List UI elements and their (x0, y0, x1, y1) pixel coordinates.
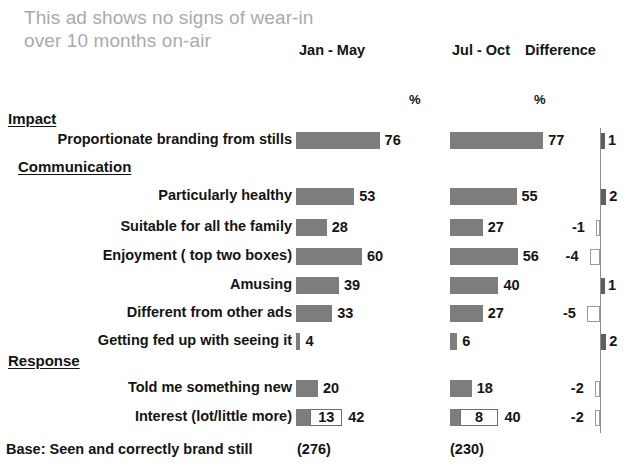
bar-value-jan-may: 39 (344, 277, 360, 293)
row-label: Interest (lot/little more) (135, 408, 292, 424)
bar-value-jan-may: 33 (337, 305, 353, 321)
bar-value-jan-may: 20 (323, 380, 339, 396)
bar-jul-oct (450, 132, 543, 149)
section-heading-communication: Communication (18, 158, 131, 175)
percent-unit-jul-oct: % (534, 92, 546, 107)
bar-value-jan-may: 60 (367, 248, 383, 264)
base-label: Base: Seen and correctly brand still (6, 441, 253, 457)
bar-value-jul-oct: 27 (488, 219, 504, 235)
percent-unit-jan-may: % (409, 92, 421, 107)
difference-bar-negative (590, 249, 600, 265)
difference-bar-negative (595, 381, 600, 397)
table-row: Enjoyment ( top two boxes)6056-4 (0, 246, 636, 268)
bar-jul-oct (450, 248, 518, 265)
table-row: Getting fed up with seeing it462 (0, 331, 636, 353)
bar-jan-may (296, 188, 354, 205)
row-label: Particularly healthy (158, 187, 292, 203)
column-header-difference: Difference (525, 42, 596, 58)
bar-jan-may (296, 219, 327, 236)
bar-jan-may (296, 333, 300, 350)
bar-jul-oct-segment (450, 409, 460, 426)
row-label: Told me something new (128, 379, 292, 395)
table-row: Different from other ads3327-5 (0, 303, 636, 325)
bar-jul-oct (450, 380, 472, 397)
bar-segment-label-jan-may: 13 (310, 409, 342, 425)
difference-bar-positive (601, 334, 606, 350)
bar-jan-may (296, 380, 318, 397)
row-label: Different from other ads (127, 304, 292, 320)
difference-bar-positive (601, 133, 605, 149)
bar-value-jul-oct: 27 (488, 305, 504, 321)
table-row: Suitable for all the family2827-1 (0, 217, 636, 239)
difference-bar-negative (596, 220, 600, 236)
difference-value: -1 (572, 219, 585, 235)
section-heading-response: Response (8, 352, 80, 369)
bar-jul-oct (450, 219, 483, 236)
difference-value: 1 (608, 132, 616, 148)
difference-value: 2 (609, 188, 617, 204)
bar-value-jul-oct: 40 (504, 409, 520, 425)
base-value-jan-may: (276) (297, 441, 331, 457)
table-row: Amusing39401 (0, 275, 636, 297)
difference-value: 1 (608, 277, 616, 293)
bar-value-jul-oct: 18 (477, 380, 493, 396)
difference-value: -2 (571, 380, 584, 396)
section-heading-impact: Impact (8, 110, 56, 127)
bar-jan-may (296, 305, 332, 322)
base-value-jul-oct: (230) (450, 441, 484, 457)
table-row: Proportionate branding from stills76771 (0, 130, 636, 152)
bar-jul-oct (450, 277, 498, 294)
table-row: Particularly healthy53552 (0, 186, 636, 208)
bar-value-jul-oct: 55 (522, 188, 538, 204)
table-row: Told me something new2018-2 (0, 378, 636, 400)
bar-jul-oct (450, 188, 517, 205)
difference-bar-positive (601, 278, 605, 294)
bar-segment-label-jul-oct: 8 (460, 409, 499, 425)
bar-jan-may (296, 248, 362, 265)
row-label: Getting fed up with seeing it (98, 332, 292, 348)
bar-value-jan-may: 28 (332, 219, 348, 235)
column-header-jan-may: Jan - May (299, 42, 365, 58)
difference-value: 2 (609, 333, 617, 349)
row-label: Enjoyment ( top two boxes) (103, 247, 292, 263)
bar-value-jan-may: 4 (305, 333, 313, 349)
bar-jan-may-segment (296, 409, 310, 426)
wear-in-chart: This ad shows no signs of wear-in over 1… (0, 0, 636, 467)
bar-value-jul-oct: 56 (523, 248, 539, 264)
row-label: Suitable for all the family (120, 218, 292, 234)
bar-value-jan-may: 76 (385, 132, 401, 148)
difference-value: -2 (571, 409, 584, 425)
bar-jul-oct (450, 333, 457, 350)
column-header-jul-oct: Jul - Oct (452, 42, 510, 58)
difference-value: -4 (566, 248, 579, 264)
bar-value-jul-oct: 40 (503, 277, 519, 293)
bar-value-jul-oct: 6 (462, 333, 470, 349)
row-label: Amusing (230, 276, 292, 292)
bar-value-jan-may: 42 (348, 409, 364, 425)
difference-bar-negative (587, 306, 600, 322)
difference-bar-positive (601, 189, 606, 205)
difference-bar-negative (595, 410, 600, 426)
bar-jan-may (296, 277, 339, 294)
bar-value-jul-oct: 77 (548, 132, 564, 148)
bar-value-jan-may: 53 (359, 188, 375, 204)
difference-value: -5 (563, 305, 576, 321)
bar-jan-may (296, 132, 380, 149)
table-row: Interest (lot/little more)1342840-2 (0, 407, 636, 429)
bar-jul-oct (450, 305, 483, 322)
row-label: Proportionate branding from stills (58, 131, 292, 147)
